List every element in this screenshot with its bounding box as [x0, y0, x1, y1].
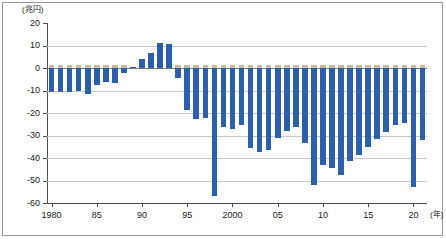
bar-baseline-cap [383, 65, 389, 68]
bar-baseline-cap [212, 65, 218, 68]
bar [239, 68, 245, 125]
bar-baseline-cap [411, 65, 417, 68]
bar-baseline-cap [275, 65, 281, 68]
bar [103, 68, 109, 82]
bar-baseline-cap [374, 65, 380, 68]
x-axis-unit-label: (年) [430, 211, 443, 219]
bar [347, 68, 353, 161]
x-tick [52, 203, 53, 207]
bar [248, 68, 254, 148]
gridline [47, 181, 427, 182]
y-tick-label: 20 [30, 19, 40, 28]
x-tick-label: 10 [318, 211, 328, 220]
bar-baseline-cap [402, 65, 408, 68]
y-tick [43, 113, 47, 114]
bar-baseline-cap [311, 65, 317, 68]
x-tick-label: 15 [363, 211, 373, 220]
bar [175, 68, 181, 78]
y-tick [43, 91, 47, 92]
bar-baseline-cap [329, 65, 335, 68]
bar [356, 68, 362, 155]
bar [257, 68, 263, 152]
bar-baseline-cap [221, 65, 227, 68]
bar-baseline-cap [420, 65, 426, 68]
y-tick [43, 136, 47, 137]
bar-baseline-cap [184, 65, 190, 68]
x-tick [323, 203, 324, 207]
bar [121, 68, 127, 73]
bar [411, 68, 417, 187]
bar-baseline-cap [393, 65, 399, 68]
bar [275, 68, 281, 138]
bar-baseline-cap [338, 65, 344, 68]
x-tick-label: 85 [92, 211, 102, 220]
x-tick [97, 203, 98, 207]
x-tick [232, 203, 233, 207]
bar [374, 68, 380, 139]
y-axis-unit-label: (兆円) [22, 5, 43, 15]
bar [266, 68, 272, 150]
bar [393, 68, 399, 125]
bar [85, 68, 91, 94]
gridline [47, 46, 427, 47]
gridline [47, 158, 427, 159]
bar [338, 68, 344, 175]
y-tick [43, 181, 47, 182]
x-tick-label: 90 [137, 211, 147, 220]
y-tick [43, 23, 47, 24]
bar [212, 68, 218, 196]
bar-baseline-cap [94, 65, 100, 68]
y-tick-label: -10 [27, 86, 40, 95]
bar [284, 68, 290, 131]
bar [184, 68, 190, 110]
bar [76, 68, 82, 91]
bar [49, 68, 55, 92]
bar [58, 68, 64, 92]
y-tick-label: -50 [27, 176, 40, 185]
bar-baseline-cap [284, 65, 290, 68]
bar [193, 68, 199, 119]
x-tick-label: 2000 [222, 211, 242, 220]
bar-baseline-cap [239, 65, 245, 68]
y-tick [43, 68, 47, 69]
y-tick-label: -30 [27, 131, 40, 140]
bar [230, 68, 236, 129]
x-tick-label: 95 [182, 211, 192, 220]
bar-baseline-cap [130, 65, 136, 68]
bar [420, 68, 426, 140]
x-tick [278, 203, 279, 207]
y-tick-label: -20 [27, 109, 40, 118]
bar-baseline-cap [175, 65, 181, 68]
x-tick [413, 203, 414, 207]
y-tick-label: 10 [30, 41, 40, 50]
bar-baseline-cap [293, 65, 299, 68]
bar-baseline-cap [49, 65, 55, 68]
x-tick-label: 20 [408, 211, 418, 220]
bar [383, 68, 389, 132]
bar-baseline-cap [320, 65, 326, 68]
x-tick [368, 203, 369, 207]
bar [293, 68, 299, 127]
bar-baseline-cap [230, 65, 236, 68]
bar-baseline-cap [58, 65, 64, 68]
bar-baseline-cap [76, 65, 82, 68]
bar-baseline-cap [157, 65, 163, 68]
chart-figure: (兆円) 20100-10-20-30-40-50-60 19808590952… [0, 0, 446, 239]
y-tick [43, 203, 47, 204]
bar-baseline-cap [347, 65, 353, 68]
bar-baseline-cap [103, 65, 109, 68]
bar-baseline-cap [148, 65, 154, 68]
bar [320, 68, 326, 165]
bar [221, 68, 227, 127]
x-tick [187, 203, 188, 207]
bar-baseline-cap [302, 65, 308, 68]
bar [402, 68, 408, 123]
bar [203, 68, 209, 118]
plot-area: 20100-10-20-30-40-50-60 1980859095200005… [47, 23, 427, 203]
bar-baseline-cap [139, 65, 145, 68]
bar [329, 68, 335, 168]
x-tick-label: 05 [273, 211, 283, 220]
y-tick-label: -60 [27, 199, 40, 208]
bar [67, 68, 73, 92]
bar-baseline-cap [112, 65, 118, 68]
